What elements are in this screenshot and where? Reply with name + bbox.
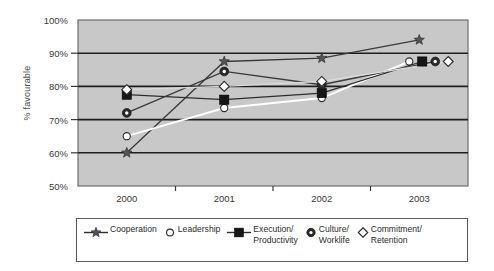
x-tick-label: 2002 xyxy=(292,193,352,204)
data-point-circle-donut xyxy=(307,228,315,236)
legend-label: Commitment/ Retention xyxy=(371,224,422,246)
data-point-star xyxy=(91,227,101,236)
x-tick-label: 2001 xyxy=(194,193,254,204)
data-point-circle-open xyxy=(166,229,173,236)
legend-item[interactable]: Execution/ Productivity xyxy=(226,224,297,246)
chart-legend: CooperationLeadershipExecution/ Producti… xyxy=(76,218,468,262)
legend-marker-diamond-open-icon xyxy=(356,225,370,238)
legend-label: Culture/ Worklife xyxy=(319,224,350,246)
legend-item[interactable]: Leadership xyxy=(163,224,221,238)
chart-figure: % favourable 50%60%70%80%90%100% 2000200… xyxy=(0,0,494,271)
legend-marker-circle-open-icon xyxy=(163,225,177,238)
legend-marker-circle-donut-icon xyxy=(304,225,318,238)
x-tick-label: 2003 xyxy=(389,193,449,204)
data-point-diamond-open xyxy=(358,228,368,238)
legend-marker-square-icon xyxy=(226,225,252,238)
legend-item[interactable]: Commitment/ Retention xyxy=(356,224,422,246)
legend-label: Leadership xyxy=(178,224,221,235)
data-point-square xyxy=(235,228,244,237)
legend-marker-star-icon xyxy=(83,225,109,238)
legend-item[interactable]: Cooperation xyxy=(83,224,157,238)
x-tick-label: 2000 xyxy=(97,193,157,204)
legend-label: Cooperation xyxy=(110,224,157,235)
legend-label: Execution/ Productivity xyxy=(253,224,297,246)
legend-item[interactable]: Culture/ Worklife xyxy=(304,224,350,246)
